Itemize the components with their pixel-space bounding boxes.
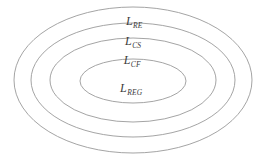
label-lcf-base: L bbox=[124, 53, 131, 67]
label-lreg-base: L bbox=[120, 81, 127, 95]
nested-ellipse-diagram: LRE LCS LCF LREG bbox=[0, 0, 265, 166]
label-lreg-subscript: REG bbox=[127, 88, 142, 97]
label-lcf-subscript: CF bbox=[131, 60, 141, 69]
label-lcs: LCS bbox=[125, 32, 141, 48]
label-lcs-subscript: CS bbox=[132, 41, 141, 50]
label-lcs-base: L bbox=[125, 34, 132, 48]
label-lre-base: L bbox=[126, 14, 133, 28]
label-lre: LRE bbox=[126, 12, 142, 28]
label-lre-subscript: RE bbox=[133, 21, 142, 30]
label-lreg: LREG bbox=[120, 79, 142, 95]
label-lcf: LCF bbox=[124, 51, 141, 67]
